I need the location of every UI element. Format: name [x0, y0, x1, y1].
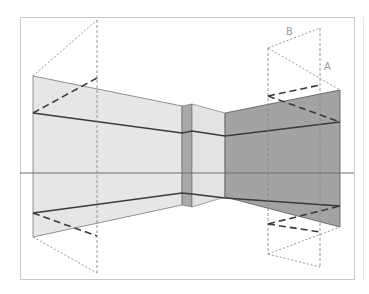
perspective-diagram: B A [0, 0, 369, 294]
label-a: A [324, 61, 331, 72]
pillar-front [192, 104, 225, 207]
label-b: B [286, 26, 293, 37]
pillar-side [182, 104, 192, 207]
